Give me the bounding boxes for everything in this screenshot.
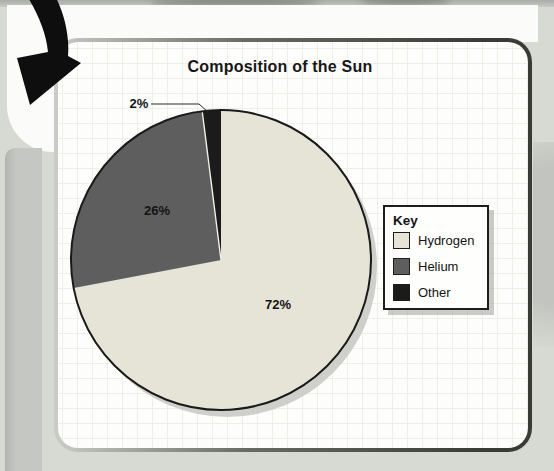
legend-swatch-helium xyxy=(393,258,410,275)
pie-label-helium: 26% xyxy=(144,203,170,218)
figure-card-border: Composition of the Sun 72% 26% 2% Key Hy… xyxy=(54,38,532,452)
legend-item-helium: Helium xyxy=(393,258,458,275)
legend-label-other: Other xyxy=(418,285,451,300)
legend-swatch-hydrogen xyxy=(393,232,410,249)
pie-label-other: 2% xyxy=(130,96,149,111)
legend-swatch-other xyxy=(393,284,410,301)
figure-card: Composition of the Sun 72% 26% 2% Key Hy… xyxy=(58,42,528,448)
legend-item-hydrogen: Hydrogen xyxy=(393,232,474,249)
legend: Key Hydrogen Helium Other xyxy=(383,205,489,310)
pie-label-hydrogen: 72% xyxy=(265,297,291,312)
legend-label-hydrogen: Hydrogen xyxy=(418,233,474,248)
legend-item-other: Other xyxy=(393,284,451,301)
legend-label-helium: Helium xyxy=(418,259,458,274)
legend-title: Key xyxy=(393,213,418,228)
background-band-left xyxy=(5,148,42,471)
curved-arrow-icon xyxy=(2,0,102,114)
background-blob-right xyxy=(533,142,554,347)
